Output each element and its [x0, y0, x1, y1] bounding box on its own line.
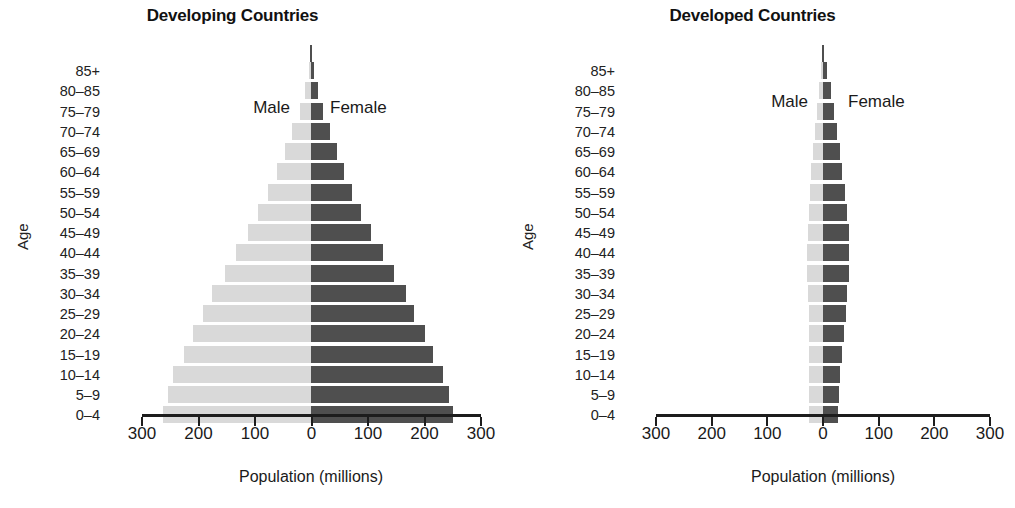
bar-row	[0, 184, 505, 201]
figure-source-note	[505, 502, 1015, 508]
bar-row	[0, 163, 505, 180]
bar-female	[823, 386, 839, 403]
x-axis-tick-label: 0	[307, 424, 316, 444]
x-axis-tick-label: 200	[410, 424, 438, 444]
bar-row	[505, 305, 1015, 322]
bar-row	[505, 184, 1015, 201]
bar-male	[184, 346, 311, 363]
bar-male	[248, 224, 311, 241]
bar-female	[311, 62, 314, 79]
bar-row	[505, 82, 1015, 99]
bar-row	[505, 285, 1015, 302]
bar-male	[809, 204, 823, 221]
x-axis-tick-label: 200	[184, 424, 212, 444]
pyramid-apex-stem	[822, 45, 824, 62]
bar-female	[823, 62, 827, 79]
bar-row	[505, 143, 1015, 160]
bar-female	[823, 285, 847, 302]
chart-panel-developing: Developing Countries Age 85+80–8575–7970…	[0, 0, 505, 508]
x-axis-tick-label: 200	[697, 424, 725, 444]
pyramid-apex-stem	[310, 45, 312, 62]
chart-panel-developed: Developed Countries Age 85+80–8575–7970–…	[505, 0, 1015, 508]
x-axis-tick-label: 100	[241, 424, 269, 444]
plot-area-developed: 3002001000100200300	[505, 0, 1015, 508]
series-label-female-developing: Female	[330, 98, 387, 118]
bar-female	[311, 366, 443, 383]
bar-row	[0, 305, 505, 322]
bar-female	[823, 366, 840, 383]
bar-male	[285, 143, 311, 160]
bar-male	[173, 366, 311, 383]
bar-male	[811, 163, 823, 180]
bar-female	[823, 184, 845, 201]
bar-female	[311, 204, 361, 221]
bar-row	[0, 386, 505, 403]
bar-female	[823, 163, 842, 180]
bar-row	[0, 62, 505, 79]
bar-row	[0, 143, 505, 160]
bar-female	[311, 265, 394, 282]
bar-female	[311, 82, 318, 99]
bar-row	[0, 366, 505, 383]
bar-female	[823, 224, 849, 241]
bar-male	[277, 163, 311, 180]
bar-female	[311, 346, 433, 363]
bar-row	[505, 265, 1015, 282]
x-axis-tick-label: 100	[753, 424, 781, 444]
bar-male	[168, 386, 311, 403]
bar-male	[809, 305, 823, 322]
bar-male	[808, 285, 823, 302]
bar-male	[809, 325, 823, 342]
bar-row	[505, 204, 1015, 221]
bar-male	[810, 184, 823, 201]
bar-row	[505, 62, 1015, 79]
bar-row	[505, 325, 1015, 342]
x-axis-tick-label: 300	[128, 424, 156, 444]
bar-female	[823, 244, 849, 261]
bar-female	[311, 163, 344, 180]
bar-male	[809, 386, 823, 403]
x-axis-tick-label: 300	[467, 424, 495, 444]
x-axis-title-developing: Population (millions)	[239, 468, 383, 486]
bar-female	[311, 123, 330, 140]
bar-row	[0, 82, 505, 99]
bar-row	[505, 244, 1015, 261]
bar-row	[0, 123, 505, 140]
bar-male	[807, 265, 823, 282]
bar-male	[809, 366, 823, 383]
bar-female	[311, 244, 383, 261]
bar-male	[268, 184, 311, 201]
x-axis-tick-label: 100	[864, 424, 892, 444]
bar-female	[311, 285, 406, 302]
bar-row	[0, 346, 505, 363]
x-axis-tick-label: 0	[818, 424, 827, 444]
bar-row	[0, 244, 505, 261]
bar-row	[505, 224, 1015, 241]
x-axis-tick-label: 200	[920, 424, 948, 444]
bar-female	[823, 123, 837, 140]
bar-row	[0, 204, 505, 221]
bar-row	[0, 285, 505, 302]
bar-female	[823, 265, 849, 282]
bar-male	[807, 244, 823, 261]
bar-female	[823, 103, 834, 120]
x-axis-tick-label: 300	[976, 424, 1004, 444]
bar-female	[823, 204, 847, 221]
bar-female	[311, 224, 371, 241]
bar-row	[505, 163, 1015, 180]
bar-row	[505, 346, 1015, 363]
bar-female	[311, 386, 449, 403]
bar-female	[823, 346, 842, 363]
bar-row	[0, 265, 505, 282]
bar-male	[813, 143, 823, 160]
bar-female	[311, 143, 337, 160]
series-label-male-developing: Male	[253, 98, 290, 118]
bar-row	[505, 366, 1015, 383]
series-label-female-developed: Female	[848, 92, 905, 112]
bar-female	[823, 305, 846, 322]
bar-row	[0, 325, 505, 342]
bar-male	[193, 325, 311, 342]
bar-female	[311, 305, 414, 322]
bar-male	[225, 265, 311, 282]
bar-female	[311, 325, 425, 342]
